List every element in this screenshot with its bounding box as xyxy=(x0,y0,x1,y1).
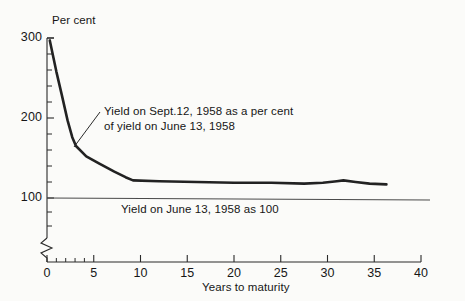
y-tick-label: 200 xyxy=(8,110,42,124)
x-tick-label: 40 xyxy=(406,266,436,280)
x-tick-label: 0 xyxy=(32,266,62,280)
y-axis-major-ticks xyxy=(47,38,54,198)
x-tick-label: 20 xyxy=(219,266,249,280)
chart-figure: Per cent Years to maturity 100200300 051… xyxy=(0,0,465,301)
series-annotation: Yield on Sept.12, 1958 as a per cent of … xyxy=(104,104,293,133)
y-axis-minor-ticks xyxy=(47,54,52,226)
y-tick-label: 100 xyxy=(8,190,42,204)
x-tick-label: 15 xyxy=(172,266,202,280)
y-axis-title: Per cent xyxy=(52,14,96,26)
reference-line-100 xyxy=(47,198,430,200)
x-axis-title: Years to maturity xyxy=(202,281,290,293)
annotation-leader-line xyxy=(74,112,100,147)
series-annotation-line2: of yield on June 13, 1958 xyxy=(104,119,293,134)
x-tick-label: 10 xyxy=(126,266,156,280)
x-axis-major-ticks xyxy=(47,255,421,262)
x-tick-label: 5 xyxy=(79,266,109,280)
reference-line-label: Yield on June 13, 1958 as 100 xyxy=(121,203,279,215)
chart-canvas xyxy=(0,0,465,301)
series-annotation-line1: Yield on Sept.12, 1958 as a per cent xyxy=(104,104,293,119)
x-tick-label: 30 xyxy=(313,266,343,280)
y-tick-label: 300 xyxy=(8,30,42,44)
x-tick-label: 35 xyxy=(359,266,389,280)
x-axis-minor-ticks xyxy=(56,258,84,262)
x-tick-label: 25 xyxy=(266,266,296,280)
